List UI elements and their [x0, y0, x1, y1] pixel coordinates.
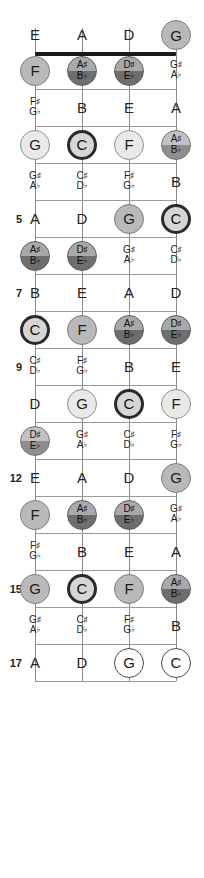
fret-line-12 [35, 496, 176, 497]
fret-line-2 [35, 126, 176, 127]
note-f3-s2: C [67, 130, 97, 160]
note-f16-s2: C♯D♭ [59, 615, 105, 637]
note-f11-s4: F♯G♭ [153, 430, 199, 452]
note-f10-s2: G [67, 389, 97, 419]
note-f8-s2: F [67, 315, 97, 345]
note-f2-s4: A [153, 100, 199, 115]
note-f13-s3: D♯E♭ [114, 500, 144, 530]
fret-line-16 [35, 644, 176, 645]
note-f6-s3: G♯A♭ [106, 245, 152, 267]
note-f14-s3: E [106, 544, 152, 559]
note-f8-s3: A♯B♭ [114, 315, 144, 345]
fret-line-5 [35, 237, 176, 238]
note-f6-s2: D♯E♭ [67, 241, 97, 271]
note-f16-s1: G♯A♭ [12, 615, 58, 637]
note-f17-s3: G [114, 648, 144, 678]
note-f4-s3: F♯G♭ [106, 171, 152, 193]
note-f16-s3: F♯G♭ [106, 615, 152, 637]
fret-line-14 [35, 570, 176, 571]
note-f0-s3: D [106, 27, 152, 42]
fret-line-11 [35, 459, 176, 460]
note-f14-s4: A [153, 544, 199, 559]
note-f5-s4: C [161, 204, 191, 234]
note-f17-s4: C [161, 648, 191, 678]
note-f5-s3: G [114, 204, 144, 234]
note-f15-s3: F [114, 574, 144, 604]
note-f1-s4: G♯A♭ [153, 60, 199, 82]
note-f2-s1: F♯G♭ [12, 97, 58, 119]
note-f12-s2: A [59, 470, 105, 485]
note-f16-s4: B [153, 618, 199, 633]
note-f7-s1: B [12, 285, 58, 300]
note-f14-s2: B [59, 544, 105, 559]
note-f7-s3: A [106, 285, 152, 300]
note-f10-s4: F [161, 389, 191, 419]
note-f2-s2: B [59, 100, 105, 115]
note-f3-s1: G [20, 130, 50, 160]
note-f11-s3: C♯D♭ [106, 430, 152, 452]
note-f5-s1: A [12, 211, 58, 226]
fret-line-8 [35, 348, 176, 349]
note-f12-s4: G [161, 463, 191, 493]
note-f6-s1: A♯B♭ [20, 241, 50, 271]
note-f3-s3: F [114, 130, 144, 160]
note-f4-s1: G♯A♭ [12, 171, 58, 193]
note-f1-s3: D♯E♭ [114, 56, 144, 86]
note-f8-s1: C [20, 315, 50, 345]
note-f12-s3: D [106, 470, 152, 485]
note-f3-s4: A♯B♭ [161, 130, 191, 160]
note-f10-s3: C [114, 389, 144, 419]
fretboard-diagram: 579121517EADGFA♯B♭D♯E♭G♯A♭F♯G♭BEAGCFA♯B♭… [0, 0, 204, 878]
note-f10-s1: D [12, 396, 58, 411]
note-f7-s4: D [153, 285, 199, 300]
note-f13-s4: G♯A♭ [153, 504, 199, 526]
note-f0-s2: A [59, 27, 105, 42]
note-f9-s4: E [153, 359, 199, 374]
fret-line-7 [35, 311, 176, 312]
note-f9-s1: C♯D♭ [12, 356, 58, 378]
note-f14-s1: F♯G♭ [12, 541, 58, 563]
fret-line-1 [35, 89, 176, 90]
fret-line-3 [35, 163, 176, 164]
note-f1-s1: F [20, 56, 50, 86]
note-f9-s3: B [106, 359, 152, 374]
note-f4-s4: B [153, 174, 199, 189]
note-f0-s1: E [12, 27, 58, 42]
note-f5-s2: D [59, 211, 105, 226]
note-f7-s2: E [59, 285, 105, 300]
fret-line-17 [35, 681, 176, 682]
note-f11-s1: D♯E♭ [20, 426, 50, 456]
fret-line-10 [35, 422, 176, 423]
note-f6-s4: C♯D♭ [153, 245, 199, 267]
fret-line-15 [35, 607, 176, 608]
note-f1-s2: A♯B♭ [67, 56, 97, 86]
note-f15-s4: A♯B♭ [161, 574, 191, 604]
note-f13-s1: F [20, 500, 50, 530]
note-f15-s1: G [20, 574, 50, 604]
fret-number-15: 15 [0, 583, 22, 595]
note-f11-s2: G♯A♭ [59, 430, 105, 452]
note-f0-s4: G [161, 20, 191, 50]
fret-line-9 [35, 385, 176, 386]
fret-line-13 [35, 533, 176, 534]
note-f17-s2: D [59, 655, 105, 670]
note-f15-s2: C [67, 574, 97, 604]
note-f13-s2: A♯B♭ [67, 500, 97, 530]
fret-line-4 [35, 200, 176, 201]
note-f2-s3: E [106, 100, 152, 115]
note-f17-s1: A [12, 655, 58, 670]
note-f4-s2: C♯D♭ [59, 171, 105, 193]
note-f9-s2: F♯G♭ [59, 356, 105, 378]
note-f8-s4: D♯E♭ [161, 315, 191, 345]
clipped-top-row [0, 0, 204, 5]
fret-line-6 [35, 274, 176, 275]
note-f12-s1: E [12, 470, 58, 485]
nut [35, 52, 176, 56]
